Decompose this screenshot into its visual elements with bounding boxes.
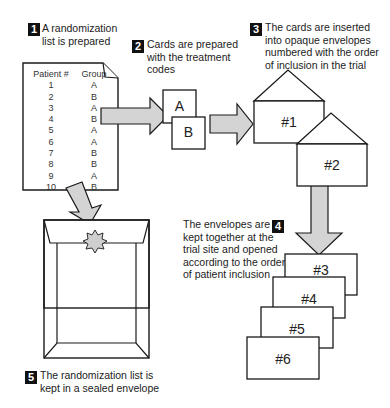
column-header-group: Group — [79, 69, 109, 80]
envelope-5-label: #5 — [261, 321, 333, 337]
sealed-envelope — [44, 220, 149, 358]
caption-line: The envelopes are — [183, 218, 285, 231]
envelope-6-label: #6 — [247, 351, 319, 367]
caption-line: The randomization list is — [40, 369, 159, 382]
envelope-3-label: #3 — [285, 262, 357, 278]
patient-number: 2 — [23, 92, 79, 103]
list-row: 4B — [23, 114, 109, 125]
envelope-1-label: #1 — [254, 114, 324, 130]
list-row: 8B — [23, 159, 109, 170]
step-5-badge: 5 — [25, 371, 37, 384]
step-3-badge: 3 — [250, 23, 262, 36]
list-row: 6A — [23, 137, 109, 148]
arrow-cards-to-envelopes — [210, 104, 253, 144]
caption-line: Cards are prepared — [147, 38, 238, 51]
group-value: A — [79, 80, 109, 91]
envelope-2-label: #2 — [297, 157, 367, 173]
patient-number: 10 — [23, 182, 79, 193]
card-a-label: A — [163, 98, 196, 114]
list-row: 5A — [23, 125, 109, 136]
caption-line: with the treatment — [147, 51, 238, 64]
step-1-badge: 1 — [28, 23, 40, 36]
step-5-caption: The randomization list is kept in a seal… — [40, 369, 159, 394]
patient-number: 6 — [23, 137, 79, 148]
patient-number: 7 — [23, 148, 79, 159]
envelope-4-label: #4 — [273, 291, 345, 307]
caption-line: The cards are inserted — [265, 21, 379, 34]
group-value: A — [79, 125, 109, 136]
caption-line: of inclusion in the trial — [265, 59, 379, 72]
caption-line: codes — [147, 63, 238, 76]
patient-number: 5 — [23, 125, 79, 136]
patient-number: 1 — [23, 80, 79, 91]
group-value: B — [79, 148, 109, 159]
list-row: 2B — [23, 92, 109, 103]
patient-number: 3 — [23, 103, 79, 114]
group-value: B — [79, 159, 109, 170]
card-b-label: B — [172, 124, 205, 140]
list-row: 1A — [23, 80, 109, 91]
patient-number: 9 — [23, 171, 79, 182]
caption-line: of patient inclusion — [183, 268, 285, 281]
list-row: 3A — [23, 103, 109, 114]
caption-line: numbered with the order — [265, 46, 379, 59]
step-2-badge: 2 — [132, 40, 144, 53]
list-row: 9A — [23, 171, 109, 182]
arrow-envelopes-to-stack — [296, 180, 342, 255]
patient-number: 8 — [23, 159, 79, 170]
caption-line: according to the order — [183, 256, 285, 269]
caption-line: kept in a sealed envelope — [40, 382, 159, 395]
step-2-caption: Cards are prepared with the treatment co… — [147, 38, 238, 76]
patient-number: 4 — [23, 114, 79, 125]
group-value: A — [79, 103, 109, 114]
step-3-caption: The cards are inserted into opaque envel… — [265, 21, 379, 71]
caption-line: trial site and opened — [183, 243, 285, 256]
randomization-list-table: Patient # Group 1A 2B 3A 4B 5A 6A 7B 8B … — [23, 69, 109, 193]
group-value: A — [79, 137, 109, 148]
caption-line: into opaque envelopes — [265, 34, 379, 47]
step-4-badge: 4 — [272, 220, 284, 233]
caption-line: A randomization — [42, 22, 117, 35]
step-4-caption: The envelopes are kept together at the t… — [183, 218, 285, 281]
step-1-caption: A randomization list is prepared — [42, 22, 117, 47]
caption-line: kept together at the — [183, 231, 285, 244]
group-value: B — [79, 114, 109, 125]
group-value: B — [79, 92, 109, 103]
caption-line: list is prepared — [42, 35, 117, 48]
column-header-patient: Patient # — [23, 69, 79, 80]
group-value: A — [79, 171, 109, 182]
list-row: 10B — [23, 182, 109, 193]
list-header-row: Patient # Group — [23, 69, 109, 80]
list-row: 7B — [23, 148, 109, 159]
group-value: B — [79, 182, 109, 193]
